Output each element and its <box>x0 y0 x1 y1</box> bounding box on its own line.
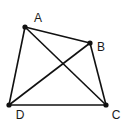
segment-ac <box>25 27 106 105</box>
segments <box>9 27 106 105</box>
vertex-label-d: D <box>16 108 25 122</box>
vertex-d <box>6 102 11 107</box>
vertex-label-c: C <box>112 108 121 122</box>
vertex-label-a: A <box>34 11 42 25</box>
vertex-c <box>103 102 108 107</box>
vertex-label-b: B <box>97 40 105 54</box>
segment-da <box>9 27 25 105</box>
vertex-b <box>87 40 92 45</box>
quadrilateral-diagram: ABCD <box>0 0 124 126</box>
segment-bd <box>9 43 90 105</box>
vertex-a <box>22 24 27 29</box>
segment-ab <box>25 27 90 43</box>
